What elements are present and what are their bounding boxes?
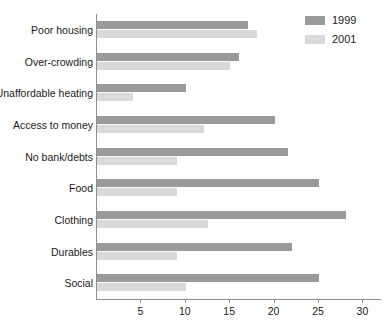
bar-1999 xyxy=(97,211,346,219)
x-axis-tick-label: 5 xyxy=(125,305,155,317)
bar-2001 xyxy=(97,30,257,38)
bar-1999 xyxy=(97,148,288,156)
x-axis-tick-label: 25 xyxy=(303,305,333,317)
x-axis-tick xyxy=(229,299,230,303)
x-axis-tick-label: 20 xyxy=(259,305,289,317)
bar-1999 xyxy=(97,21,248,29)
bar-1999 xyxy=(97,274,319,282)
x-axis-tick xyxy=(140,299,141,303)
y-axis-category-label: Social xyxy=(64,277,93,289)
bar-1999 xyxy=(97,116,275,124)
bar-2001 xyxy=(97,188,177,196)
bar-1999 xyxy=(97,53,239,61)
bar-2001 xyxy=(97,62,230,70)
x-axis-tick xyxy=(185,299,186,303)
x-axis-tick xyxy=(274,299,275,303)
x-axis-tick-label: 15 xyxy=(214,305,244,317)
x-axis-tick xyxy=(318,299,319,303)
bar-2001 xyxy=(97,252,177,260)
y-axis-category-label: Durables xyxy=(51,246,93,258)
y-axis-category-label: Clothing xyxy=(54,214,93,226)
x-axis-tick xyxy=(362,299,363,303)
bar-chart-figure: 1999 2001 51015202530Poor housingOver-cr… xyxy=(0,0,383,320)
bar-2001 xyxy=(97,125,204,133)
y-axis-category-label: Over-crowding xyxy=(25,56,93,68)
bar-1999 xyxy=(97,243,292,251)
y-axis-category-label: Poor housing xyxy=(31,24,93,36)
bar-1999 xyxy=(97,179,319,187)
y-axis-category-label: Food xyxy=(69,182,93,194)
bar-2001 xyxy=(97,93,133,101)
bar-1999 xyxy=(97,84,186,92)
x-axis-line xyxy=(96,299,381,300)
y-axis-category-label: No bank/debts xyxy=(25,151,93,163)
x-axis-tick-label: 10 xyxy=(170,305,200,317)
bar-2001 xyxy=(97,220,208,228)
y-axis-category-label: Unaffordable heating xyxy=(0,87,93,99)
bar-2001 xyxy=(97,283,186,291)
bar-2001 xyxy=(97,157,177,165)
x-axis-tick-label: 30 xyxy=(347,305,377,317)
plot-area: 51015202530Poor housingOver-crowdingUnaf… xyxy=(0,0,383,320)
y-axis-category-label: Access to money xyxy=(13,119,93,131)
